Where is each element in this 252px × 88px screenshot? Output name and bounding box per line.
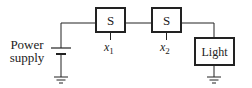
ground-icon [207, 77, 221, 83]
ground-icon [54, 77, 68, 83]
switch-2-input-label: x2 [159, 40, 170, 56]
power-supply-label-line2: supply [10, 50, 45, 65]
wire-supply-to-switch1 [61, 23, 96, 48]
switch-1-input-label: x1 [103, 40, 114, 56]
wire-switch2-to-light [181, 23, 214, 38]
light-label: Light [202, 45, 229, 59]
circuit-diagram: S x1 S x2 Light Power supply [0, 0, 252, 88]
switch-2-label: S [163, 13, 170, 28]
switch-1-label: S [107, 13, 114, 28]
